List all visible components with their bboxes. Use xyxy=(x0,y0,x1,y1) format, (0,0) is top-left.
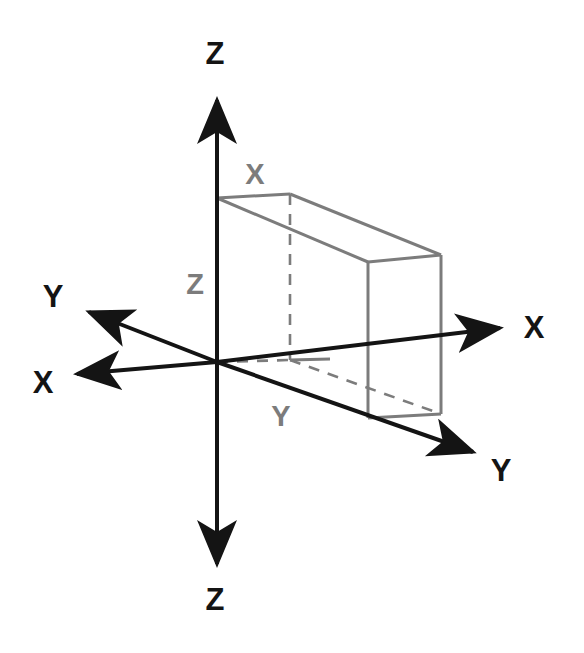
axis-line-x-positive xyxy=(217,328,500,362)
box-edge-top-near-long xyxy=(217,198,368,262)
rectangular-box xyxy=(217,194,441,418)
box-label-z: Z xyxy=(186,268,204,300)
box-hidden-edge-far-bottom xyxy=(290,360,441,414)
box-label-x: X xyxy=(245,158,265,190)
axis-label-y-lower-right: Y xyxy=(491,453,512,488)
box-edge-top-far-long xyxy=(290,194,441,255)
axis-line-x-negative xyxy=(77,362,217,374)
axis-label-x-left: X xyxy=(33,365,54,400)
axis-label-z-up: Z xyxy=(206,36,225,71)
axis-line-y-positive xyxy=(217,362,473,452)
diagram-canvas: Z Z X X Y Y X Y Z xyxy=(0,0,584,653)
axis-label-z-down: Z xyxy=(206,582,225,617)
coordinate-system-diagram: Z Z X X Y Y X Y Z xyxy=(0,0,584,653)
axis-label-x-right: X xyxy=(524,310,545,345)
axis-line-y-negative xyxy=(89,312,217,362)
box-edge-top-right-depth xyxy=(368,255,441,262)
box-edge-top-left-depth xyxy=(217,194,290,198)
box-edge-bottom-left-near xyxy=(290,359,330,360)
axes-group xyxy=(77,100,500,564)
box-label-y: Y xyxy=(271,400,290,432)
axis-label-y-upper-left: Y xyxy=(43,279,64,314)
